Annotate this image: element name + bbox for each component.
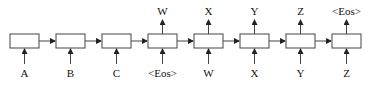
rnn-cell-box [332,34,361,48]
rnn-cell-box [286,34,315,48]
input-label: <Eos> [143,67,183,79]
rnn-cell-box [240,34,269,48]
input-label: A [5,67,45,79]
rnn-cell-box [148,34,177,48]
input-label: X [235,67,275,79]
rnn-cell-box [102,34,131,48]
output-label: X [189,5,229,17]
input-label: C [97,67,137,79]
output-label: Y [235,5,275,17]
output-label: <Eos> [327,5,367,17]
input-label: Z [327,67,367,79]
output-label: W [143,5,183,17]
rnn-cell-box [10,34,39,48]
input-label: Y [281,67,321,79]
rnn-cell-box [194,34,223,48]
output-label: Z [281,5,321,17]
input-label: B [51,67,91,79]
rnn-cell-box [56,34,85,48]
input-label: W [189,67,229,79]
